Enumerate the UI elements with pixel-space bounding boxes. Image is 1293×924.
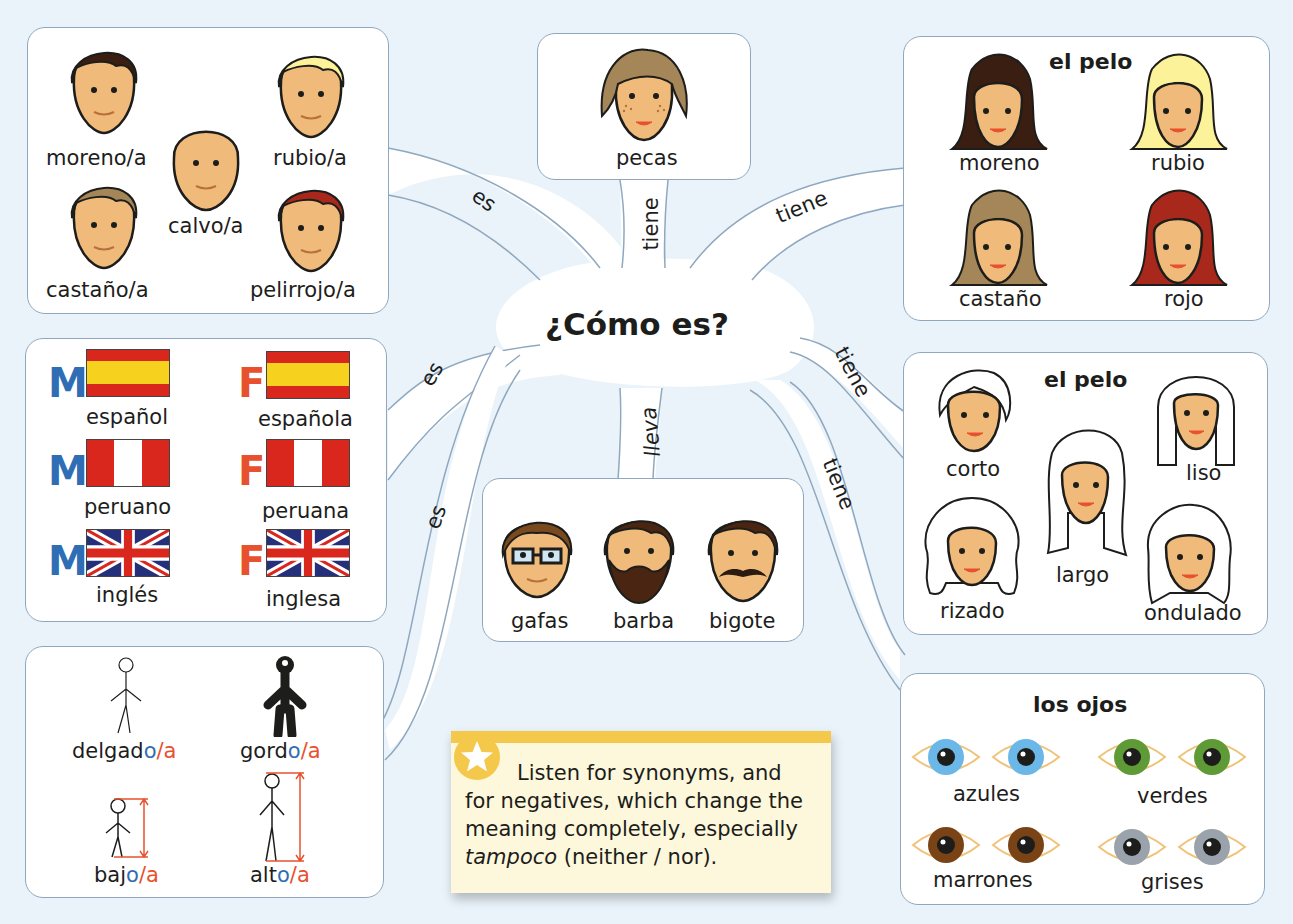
tip-line-1: Listen for synonyms, and [465,759,825,787]
label-peruano: peruano [84,497,171,518]
separator: / [156,739,163,763]
label-espanola: española [258,409,353,430]
tip-box: Listen for synonyms, and for negatives, … [451,731,831,893]
masc-ending: o [144,739,157,763]
feminine-mark: F [238,363,265,403]
fem-ending: a [146,863,159,887]
fem-ending: a [297,863,310,887]
label-inglesa: inglesa [266,589,341,610]
tip-line-4: tampoco (neither / nor). [465,843,825,871]
eyes-title: los ojos [1033,692,1127,717]
label-liso: liso [1186,463,1221,484]
label-pelirrojo-a: pelirrojo/a [250,280,356,301]
fem-ending: a [308,739,321,763]
face-moreno-icon [66,38,142,136]
feminine-mark: F [238,541,265,581]
fem-ending: a [164,739,177,763]
label-ondulado: ondulado [1144,603,1242,624]
masculine-mark: M [48,363,88,403]
face-rizado-icon [922,493,1022,603]
face-pecas-icon [598,44,690,144]
label-rubio: rubio [1151,153,1205,174]
label-verdes: verdes [1137,786,1208,807]
tip-italic-word: tampoco [465,845,557,869]
label-largo: largo [1056,565,1109,586]
face-castano-icon [66,173,142,271]
separator: / [301,739,308,763]
face-bigote-icon [705,505,781,605]
face-largo-icon [1044,423,1128,563]
label-bigote: bigote [709,611,776,632]
label-pecas: pecas [616,148,678,169]
label-corto: corto [946,459,1000,480]
eyes-green-icon [1097,734,1247,780]
flag-spain-icon [266,351,350,399]
face-liso-icon [1154,367,1238,467]
label-ingles: inglés [96,585,158,606]
eyes-box: los ojos azules verdes marrones grises [900,673,1265,905]
edge-label-tiene-pecas: tiene [639,197,663,250]
face-rubio-icon [273,42,349,140]
tip-header-bar [451,731,831,743]
eyes-blue-icon [911,734,1061,780]
flag-uk-icon [266,529,350,577]
label-peruana: peruana [262,501,349,522]
label-alto-a: alto/a [250,865,310,886]
hair-colour-men-box: moreno/a rubio/a calvo/a castaño/a pelir… [27,27,389,314]
masculine-mark: M [48,541,88,581]
masc-ending: o [126,863,139,887]
tip-text: Listen for synonyms, and for negatives, … [465,759,825,871]
tip-line-3: meaning completely, especially [465,815,825,843]
label-bajo-a: bajo/a [94,865,159,886]
face-ondulado-icon [1144,503,1234,607]
label-castano-a: castaño/a [46,280,149,301]
flag-uk-icon [86,529,170,577]
label-moreno-a: moreno/a [46,148,147,169]
hair-style-box: el pelo corto liso largo rizado ondulado [903,352,1268,635]
short-person-icon [100,797,160,859]
masculine-mark: M [48,451,88,491]
face-calvo-icon [170,118,242,213]
label-delgado-a: delgado/a [72,741,176,762]
masc-ending: o [277,863,290,887]
stem: delgad [72,739,144,763]
central-question: ¿Cómo es? [545,306,729,342]
label-espanol: español [86,407,168,428]
flag-peru-icon [266,439,350,487]
face-gafas-icon [499,507,575,599]
face-castano-woman-icon [942,185,1052,290]
label-barba: barba [613,611,674,632]
freckles-box: pecas [537,33,751,180]
face-barba-icon [601,505,677,605]
label-moreno: moreno [959,153,1040,174]
tip-line-2: for negatives, which change the [465,787,825,815]
hair-style-title: el pelo [1044,367,1127,392]
label-calvo-a: calvo/a [168,216,243,237]
label-rizado: rizado [940,601,1005,622]
fat-person-icon [260,653,310,737]
flag-spain-icon [86,349,170,397]
thin-person-icon [106,655,146,735]
masc-ending: o [288,739,301,763]
tip-line-4-rest: (neither / nor). [557,845,717,869]
face-moreno-woman-icon [942,49,1052,154]
label-gafas: gafas [511,611,568,632]
feminine-mark: F [238,451,265,491]
separator: / [139,863,146,887]
face-corto-icon [934,365,1014,455]
label-grises: grises [1141,872,1204,893]
build-box: delgado/a gordo/a bajo/a alto/a [25,646,384,898]
accessories-box: gafas barba bigote [482,478,804,642]
label-azules: azules [953,784,1020,805]
hair-colour-title: el pelo [1049,49,1132,74]
stem: baj [94,863,126,887]
eyes-brown-icon [911,822,1061,868]
hair-colour-box: el pelo moreno rubio castaño rojo [903,36,1270,321]
label-gordo-a: gordo/a [240,741,321,762]
label-rojo: rojo [1164,289,1204,310]
tall-person-icon [254,771,314,863]
label-marrones: marrones [933,870,1033,891]
face-rubio-woman-icon [1122,49,1232,154]
stem: alt [250,863,277,887]
flag-peru-icon [86,439,170,487]
